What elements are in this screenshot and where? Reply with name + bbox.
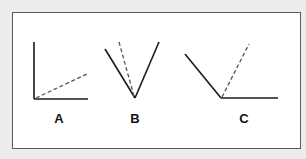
- panel-a-label: A: [54, 111, 63, 126]
- panel-b-left-arm: [105, 49, 135, 98]
- panel-b-dashed-line: [119, 42, 134, 96]
- panel-c-label: C: [239, 111, 248, 126]
- panel-a-dashed-line: [36, 74, 87, 98]
- panel-b-right-arm: [135, 42, 159, 98]
- panel-c: [185, 44, 278, 98]
- panel-c-left-arm: [185, 54, 221, 98]
- panel-b: [105, 42, 159, 98]
- panel-a: [34, 42, 88, 99]
- panel-c-dashed-line: [222, 44, 249, 97]
- angle-diagram: [0, 0, 306, 159]
- panel-b-label: B: [130, 111, 139, 126]
